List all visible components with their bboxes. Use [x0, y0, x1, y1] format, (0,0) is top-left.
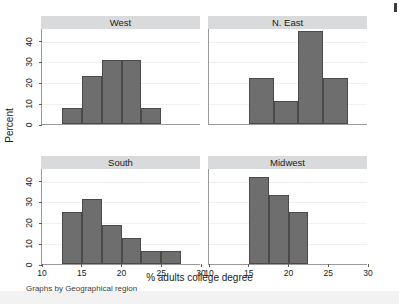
x-tick-mark [368, 264, 369, 267]
histogram-bar [141, 251, 161, 264]
histogram-bar [274, 101, 299, 124]
histogram-bar [323, 78, 348, 124]
x-tick-mark [161, 264, 162, 267]
panel-title: N. East [208, 16, 367, 29]
y-tick-mark [39, 62, 42, 63]
y-tick-mark [39, 83, 42, 84]
y-tick-mark [39, 223, 42, 224]
histogram-bar [102, 225, 122, 264]
histogram-bar [122, 60, 142, 124]
histogram-bar [82, 76, 102, 124]
histogram-bar [82, 199, 102, 264]
x-tick-mark [81, 264, 82, 267]
y-tick-label: 10 [21, 97, 37, 111]
figure-canvas: Percent West010203040N. EastSouth0102030… [0, 0, 399, 304]
y-tick-label: 20 [21, 216, 37, 230]
histogram-bar [289, 212, 309, 264]
y-tick-label: 30 [21, 55, 37, 69]
plot-area: 010203040 [41, 29, 200, 125]
histogram-bar [102, 60, 122, 124]
y-tick-mark [39, 181, 42, 182]
histogram-bar [249, 177, 269, 264]
panel-title: West [41, 16, 200, 29]
histogram-figure: Percent West010203040N. EastSouth0102030… [0, 0, 399, 304]
x-tick-mark [209, 264, 210, 267]
panel-n-east: N. East [208, 16, 367, 125]
histogram-bar [161, 251, 181, 264]
histogram-bar [298, 31, 323, 124]
histogram-bar [141, 108, 161, 124]
plot-area: 0102030401015202530 [41, 169, 200, 265]
panel-midwest: Midwest1015202530 [208, 156, 367, 265]
bar-series [209, 169, 367, 264]
x-axis-title: % adults college degree [0, 272, 399, 284]
x-tick-mark [121, 264, 122, 267]
y-axis-title-label: Percent [4, 108, 15, 142]
panel-south: South0102030401015202530 [41, 156, 200, 265]
plot-area [208, 29, 367, 125]
y-tick-label: 30 [21, 195, 37, 209]
histogram-bar [62, 212, 82, 264]
x-tick-mark [328, 264, 329, 267]
y-axis-title: Percent [2, 60, 16, 190]
y-tick-mark [39, 41, 42, 42]
histogram-bar [122, 238, 142, 264]
y-tick-mark [39, 125, 42, 126]
histogram-bar [269, 195, 289, 264]
x-tick-mark [288, 264, 289, 267]
y-tick-label: 20 [21, 76, 37, 90]
y-tick-mark [39, 202, 42, 203]
bar-series [209, 29, 367, 124]
panel-title: South [41, 156, 200, 169]
x-tick-mark [42, 264, 43, 267]
histogram-bar [249, 78, 274, 124]
figure-note: Graphs by Geographical region [26, 284, 137, 293]
x-tick-mark [201, 264, 202, 267]
bar-series [42, 169, 200, 264]
bar-series [42, 29, 200, 124]
panel-title: Midwest [208, 156, 367, 169]
plot-area: 1015202530 [208, 169, 367, 265]
y-tick-label: 40 [21, 35, 37, 49]
y-tick-label: 40 [21, 175, 37, 189]
y-tick-label: 10 [21, 237, 37, 251]
x-tick-mark [248, 264, 249, 267]
y-tick-mark [39, 104, 42, 105]
y-tick-mark [39, 244, 42, 245]
y-tick-label: 0 [21, 118, 37, 132]
panel-west: West010203040 [41, 16, 200, 125]
histogram-bar [62, 108, 82, 124]
